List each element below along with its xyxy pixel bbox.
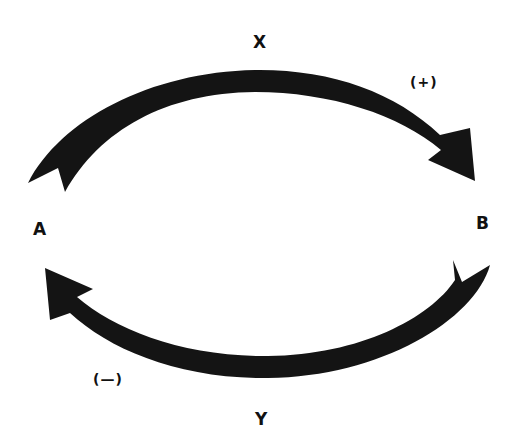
node-label-b: B [476,215,489,232]
arrow-y-negative [45,260,490,378]
sign-negative: (—) [93,372,123,386]
edge-label-x: X [253,34,266,51]
node-label-a: A [33,221,46,238]
edge-label-y: Y [255,411,267,428]
sign-positive: (+) [410,75,438,89]
arrow-x-positive [28,70,475,192]
feedback-loop-diagram [0,0,521,446]
